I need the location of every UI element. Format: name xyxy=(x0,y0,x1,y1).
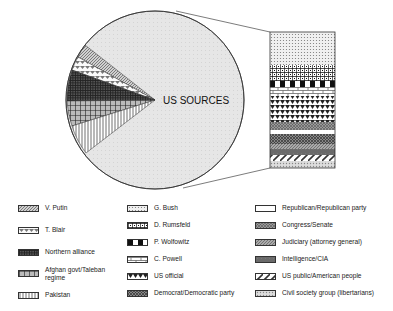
bar-segment-us-official xyxy=(270,96,335,122)
bar-segment-wolfowitz xyxy=(270,81,335,87)
swatch-triangles-icon xyxy=(18,227,39,234)
swatch-diag-gray-icon xyxy=(255,239,276,246)
bar-segment-republican xyxy=(270,130,335,134)
bar-segment-us-public xyxy=(270,155,335,161)
legend-item-congress: Congress/Senate xyxy=(255,221,333,229)
legend-item-republican: Republican/Republican party xyxy=(255,204,366,212)
bar-segment-powell xyxy=(270,87,335,96)
legend-item-us-public: US public/American people xyxy=(255,272,362,280)
legend-item-northern-alliance: Northern alliance xyxy=(18,248,95,256)
swatch-diag-fine-icon xyxy=(18,205,39,212)
pie: US SOURCES xyxy=(66,11,244,189)
swatch-checker-icon xyxy=(127,222,148,229)
swatch-dark-triangles-icon xyxy=(127,273,148,280)
bar-segment-congress xyxy=(270,134,335,144)
swatch-dense-grid-icon xyxy=(18,249,39,256)
legend-item-bush: G. Bush xyxy=(127,204,178,212)
swatch-solid-dark-icon xyxy=(255,256,276,263)
legend-item-rumsfeld: D. Rumsfeld xyxy=(127,221,190,229)
legend-item-blair: T. Blair xyxy=(18,226,65,234)
swatch-dots-icon xyxy=(127,205,148,212)
stacked-bar xyxy=(270,32,335,168)
legend: V. Putin T. Blair Northern alliance Afgh… xyxy=(0,195,393,311)
legend-item-wolfowitz: P. Wolfowitz xyxy=(127,238,189,246)
swatch-blocks-icon xyxy=(127,239,148,246)
legend-item-democrat: Democrat/Democratic party xyxy=(127,289,234,297)
bar-segment-bush xyxy=(270,32,335,65)
swatch-vertical-lines-icon xyxy=(18,292,39,299)
legend-item-civil-society: Civil society group (libertarians) xyxy=(255,289,374,297)
legend-item-putin: V. Putin xyxy=(18,204,68,212)
legend-item-afghan-govt: Afghan govt/Taleban regime xyxy=(18,266,105,282)
bar-segment-democrat xyxy=(270,122,335,130)
legend-item-pakistan: Pakistan xyxy=(18,291,70,299)
swatch-mesh-dark-icon xyxy=(255,222,276,229)
legend-item-cia: Intelligence/CIA xyxy=(255,255,328,263)
pie-of-bar-chart: US SOURCES xyxy=(0,0,393,200)
swatch-white-icon xyxy=(255,205,276,212)
pie-center-label: US SOURCES xyxy=(163,95,229,106)
bar-segment-cia xyxy=(270,149,335,155)
swatch-grid-icon xyxy=(18,270,39,277)
swatch-crosshatch-icon xyxy=(127,290,148,297)
legend-item-us-official: US official xyxy=(127,272,184,280)
legend-item-judiciary: Judiciary (attorney general) xyxy=(255,238,362,246)
bar-segment-civil-society xyxy=(270,161,335,168)
swatch-dots-fine-icon xyxy=(255,290,276,297)
legend-item-powell: C. Powell xyxy=(127,255,182,263)
swatch-wide-diag-icon xyxy=(255,273,276,280)
swatch-bricks-icon xyxy=(127,256,148,263)
bar-segment-rumsfeld xyxy=(270,65,335,81)
bar-segment-judiciary xyxy=(270,144,335,149)
